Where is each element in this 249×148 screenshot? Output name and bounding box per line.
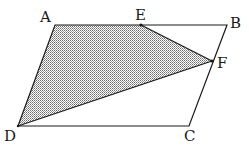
point-f-marker [210,59,213,62]
label-e: E [135,6,146,24]
shaded-region-aefd [18,25,212,126]
label-f: F [217,54,227,72]
geometry-diagram: A B C D E F [0,0,249,148]
label-d: D [4,127,16,145]
diagram-svg: A B C D E F [0,0,249,148]
label-c: C [184,127,195,145]
label-a: A [39,8,51,26]
label-b: B [230,14,241,32]
point-d-marker [17,125,19,127]
